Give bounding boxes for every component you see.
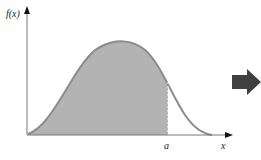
y-axis-label: f(x) (6, 8, 20, 19)
a-label: a (164, 140, 169, 151)
x-axis-arrow-icon (225, 132, 233, 138)
y-axis-arrow-icon (24, 6, 30, 14)
density-chart (0, 0, 261, 160)
shaded-area (28, 41, 168, 135)
right-arrow-icon (232, 69, 261, 95)
x-axis-label: x (221, 140, 225, 151)
